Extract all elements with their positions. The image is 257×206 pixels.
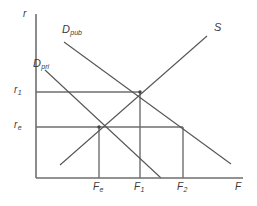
guide-lines-group bbox=[36, 92, 183, 178]
curve-label-base: D bbox=[33, 57, 41, 69]
tick-subscript: 2 bbox=[183, 186, 187, 193]
tick-subscript: 1 bbox=[18, 89, 22, 96]
curve-label-base: S bbox=[214, 21, 221, 33]
x-tick-label-F-one: F1 bbox=[134, 182, 144, 192]
x-axis-label: F bbox=[235, 182, 241, 192]
curve-label-supply: S bbox=[214, 22, 221, 33]
curve-demand-public bbox=[64, 42, 231, 164]
curve-lines-group bbox=[45, 36, 231, 178]
tick-base: r bbox=[14, 84, 17, 95]
y-tick-label-r-one: r1 bbox=[14, 85, 21, 95]
intersection-equilibrium-private bbox=[97, 125, 100, 128]
intersection-equilibrium-public bbox=[138, 90, 141, 93]
x-tick-label-F-two: F2 bbox=[177, 182, 187, 192]
y-tick-label-r-e: re bbox=[14, 120, 21, 130]
curve-label-base: D bbox=[62, 23, 70, 35]
tick-subscript: e bbox=[99, 186, 103, 193]
y-axis-label: r bbox=[23, 9, 26, 19]
curve-label-demand-private: Dpri bbox=[33, 58, 49, 69]
tick-subscript: 1 bbox=[140, 186, 144, 193]
curve-label-subscript: pri bbox=[41, 63, 49, 70]
curve-label-subscript: pub bbox=[70, 29, 82, 36]
x-tick-label-F-e: Fe bbox=[93, 182, 103, 192]
curve-label-demand-public: Dpub bbox=[62, 24, 82, 35]
curve-demand-private bbox=[45, 70, 161, 178]
tick-base: r bbox=[14, 119, 17, 130]
intersection-dots-group bbox=[97, 90, 141, 128]
tick-subscript: e bbox=[18, 124, 22, 131]
supply-demand-diagram: r F Dpub Dpri S r1 re Fe F1 F2 bbox=[0, 0, 257, 206]
